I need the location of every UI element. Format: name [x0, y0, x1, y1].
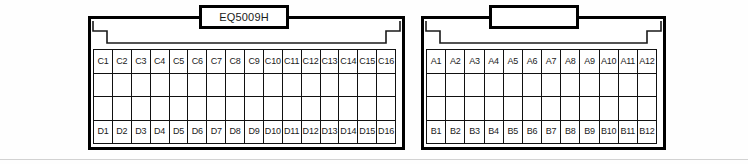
pin-cell-empty[interactable] [132, 97, 151, 120]
pin-cell-b9[interactable]: B9 [580, 121, 599, 144]
pin-cell-empty[interactable] [523, 97, 542, 120]
pin-cell-a8[interactable]: A8 [561, 50, 580, 73]
pin-cell-empty[interactable] [264, 97, 283, 120]
pin-cell-empty[interactable] [465, 74, 484, 97]
pin-cell-empty[interactable] [151, 74, 170, 97]
pin-cell-b7[interactable]: B7 [542, 121, 561, 144]
pin-cell-empty[interactable] [245, 97, 264, 120]
pin-cell-empty[interactable] [207, 97, 226, 120]
pin-cell-empty[interactable] [619, 74, 638, 97]
pin-cell-b10[interactable]: B10 [600, 121, 619, 144]
pin-cell-empty[interactable] [542, 97, 561, 120]
pin-cell-empty[interactable] [94, 74, 113, 97]
pin-cell-b12[interactable]: B12 [638, 121, 656, 144]
pin-cell-empty[interactable] [132, 74, 151, 97]
pin-cell-empty[interactable] [580, 97, 599, 120]
pin-cell-empty[interactable] [638, 97, 656, 120]
pin-cell-d6[interactable]: D6 [188, 121, 207, 144]
pin-cell-b5[interactable]: B5 [504, 121, 523, 144]
right-connector-label-box[interactable] [489, 5, 579, 29]
pin-cell-c6[interactable]: C6 [188, 50, 207, 73]
pin-cell-a1[interactable]: A1 [427, 50, 446, 73]
pin-cell-empty[interactable] [377, 97, 395, 120]
pin-cell-empty[interactable] [600, 74, 619, 97]
pin-cell-c15[interactable]: C15 [358, 50, 377, 73]
left-connector-label-box[interactable]: EQ5009H [199, 5, 289, 29]
pin-cell-empty[interactable] [339, 74, 358, 97]
pin-cell-empty[interactable] [619, 97, 638, 120]
pin-cell-d3[interactable]: D3 [132, 121, 151, 144]
pin-cell-empty[interactable] [580, 74, 599, 97]
pin-cell-c7[interactable]: C7 [207, 50, 226, 73]
pin-cell-d11[interactable]: D11 [283, 121, 302, 144]
pin-cell-d12[interactable]: D12 [302, 121, 321, 144]
pin-cell-empty[interactable] [188, 74, 207, 97]
pin-cell-b1[interactable]: B1 [427, 121, 446, 144]
pin-cell-a6[interactable]: A6 [523, 50, 542, 73]
pin-cell-a12[interactable]: A12 [638, 50, 656, 73]
pin-cell-empty[interactable] [113, 97, 132, 120]
pin-cell-a4[interactable]: A4 [485, 50, 504, 73]
pin-cell-empty[interactable] [446, 74, 465, 97]
pin-cell-a5[interactable]: A5 [504, 50, 523, 73]
pin-cell-c5[interactable]: C5 [170, 50, 189, 73]
pin-cell-empty[interactable] [113, 74, 132, 97]
pin-cell-empty[interactable] [188, 97, 207, 120]
pin-cell-empty[interactable] [283, 97, 302, 120]
pin-cell-a7[interactable]: A7 [542, 50, 561, 73]
pin-cell-empty[interactable] [542, 74, 561, 97]
pin-cell-a9[interactable]: A9 [580, 50, 599, 73]
pin-cell-empty[interactable] [427, 74, 446, 97]
pin-cell-empty[interactable] [523, 74, 542, 97]
pin-cell-d4[interactable]: D4 [151, 121, 170, 144]
pin-cell-d9[interactable]: D9 [245, 121, 264, 144]
pin-cell-d8[interactable]: D8 [226, 121, 245, 144]
pin-cell-b4[interactable]: B4 [485, 121, 504, 144]
pin-cell-b3[interactable]: B3 [465, 121, 484, 144]
pin-cell-empty[interactable] [302, 74, 321, 97]
pin-cell-empty[interactable] [170, 97, 189, 120]
pin-cell-empty[interactable] [321, 74, 340, 97]
pin-cell-empty[interactable] [485, 74, 504, 97]
pin-cell-empty[interactable] [151, 97, 170, 120]
pin-cell-a3[interactable]: A3 [465, 50, 484, 73]
pin-cell-a11[interactable]: A11 [619, 50, 638, 73]
pin-cell-empty[interactable] [302, 97, 321, 120]
pin-cell-empty[interactable] [561, 74, 580, 97]
pin-cell-empty[interactable] [504, 74, 523, 97]
pin-cell-empty[interactable] [207, 74, 226, 97]
pin-cell-empty[interactable] [339, 97, 358, 120]
pin-cell-empty[interactable] [504, 97, 523, 120]
pin-cell-a2[interactable]: A2 [446, 50, 465, 73]
pin-cell-empty[interactable] [226, 74, 245, 97]
pin-cell-d7[interactable]: D7 [207, 121, 226, 144]
pin-cell-c4[interactable]: C4 [151, 50, 170, 73]
pin-cell-empty[interactable] [321, 97, 340, 120]
pin-cell-c1[interactable]: C1 [94, 50, 113, 73]
pin-cell-d13[interactable]: D13 [321, 121, 340, 144]
pin-cell-empty[interactable] [465, 97, 484, 120]
pin-cell-c3[interactable]: C3 [132, 50, 151, 73]
pin-cell-empty[interactable] [427, 97, 446, 120]
pin-cell-empty[interactable] [446, 97, 465, 120]
pin-cell-empty[interactable] [170, 74, 189, 97]
pin-cell-c16[interactable]: C16 [377, 50, 395, 73]
pin-cell-empty[interactable] [377, 74, 395, 97]
pin-cell-empty[interactable] [358, 74, 377, 97]
pin-cell-c12[interactable]: C12 [302, 50, 321, 73]
pin-cell-d2[interactable]: D2 [113, 121, 132, 144]
pin-cell-c10[interactable]: C10 [264, 50, 283, 73]
pin-cell-b11[interactable]: B11 [619, 121, 638, 144]
pin-cell-c8[interactable]: C8 [226, 50, 245, 73]
pin-cell-a10[interactable]: A10 [600, 50, 619, 73]
pin-cell-empty[interactable] [638, 74, 656, 97]
pin-cell-b2[interactable]: B2 [446, 121, 465, 144]
pin-cell-c11[interactable]: C11 [283, 50, 302, 73]
pin-cell-c2[interactable]: C2 [113, 50, 132, 73]
pin-cell-empty[interactable] [600, 97, 619, 120]
pin-cell-empty[interactable] [485, 97, 504, 120]
pin-cell-empty[interactable] [264, 74, 283, 97]
pin-cell-d15[interactable]: D15 [358, 121, 377, 144]
pin-cell-empty[interactable] [94, 97, 113, 120]
pin-cell-d5[interactable]: D5 [170, 121, 189, 144]
